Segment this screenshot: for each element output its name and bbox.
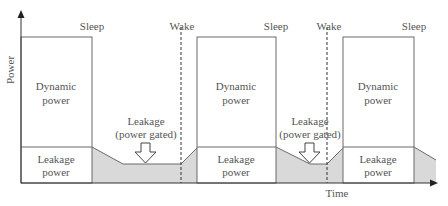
y-axis-arrow-icon (18, 10, 25, 18)
dynamic-power-label: Dynamic (216, 80, 256, 92)
sleep-label-2: Sleep (264, 20, 289, 32)
gated-leakage-label: (power gated) (115, 128, 177, 141)
gated-leakage-label: (power gated) (279, 128, 341, 141)
gated-leakage-label: Leakage (127, 115, 164, 127)
dynamic-power-label: power (222, 94, 250, 106)
dynamic-power-label: power (42, 94, 70, 106)
dynamic-power-label: Dynamic (358, 80, 398, 92)
x-axis-label: Time (326, 187, 349, 199)
sleep-label-3: Sleep (402, 20, 427, 32)
wake-label-2: Wake (317, 20, 342, 32)
leakage-power-label: power (364, 166, 392, 178)
wake-label-1: Wake (170, 20, 195, 32)
dynamic-power-label: power (364, 94, 392, 106)
leakage-power-label: Leakage (359, 153, 396, 165)
sleep-label-1: Sleep (80, 20, 105, 32)
y-axis-label: Power (4, 56, 16, 84)
leakage-power-label: Leakage (37, 153, 74, 165)
leakage-power-label: power (222, 166, 250, 178)
dynamic-power-label: Dynamic (36, 80, 76, 92)
power-gating-diagram: Power Time Sleep Wake Sleep Wake Sleep D… (0, 0, 448, 206)
leakage-power-label: power (42, 166, 70, 178)
gated-leakage-label: Leakage (291, 115, 328, 127)
gated-region-3 (414, 147, 436, 183)
leakage-power-label: Leakage (217, 153, 254, 165)
down-arrow-icon-1 (135, 143, 156, 163)
